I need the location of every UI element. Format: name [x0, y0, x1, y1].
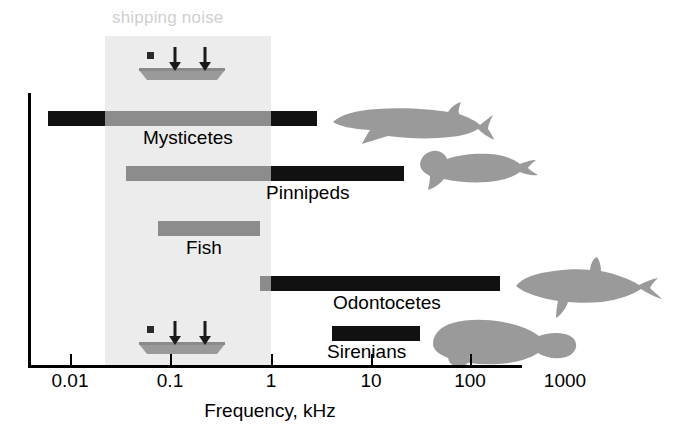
- bar-label-pinnipeds: Pinnipeds: [266, 182, 349, 204]
- ship-icon: [133, 44, 233, 86]
- bar-mysticetes-overlap: [105, 111, 271, 126]
- x-tick-label: 1: [266, 370, 277, 392]
- x-tick-label: 1000: [544, 370, 586, 392]
- bar-odontocetes: [260, 276, 500, 291]
- bar-sirenians: [332, 326, 420, 341]
- shipping-noise-label: shipping noise: [112, 8, 224, 28]
- x-tick-label: 100: [454, 370, 486, 392]
- x-axis-title: Frequency, kHz: [0, 400, 540, 422]
- x-tick: [470, 354, 472, 365]
- bar-label-fish: Fish: [186, 237, 222, 259]
- bar-label-sirenians: Sirenians: [327, 341, 406, 363]
- x-tick: [70, 354, 72, 365]
- y-axis: [28, 93, 31, 368]
- x-tick-label: 10: [360, 370, 381, 392]
- x-axis: [28, 365, 522, 368]
- bar-fish: [158, 221, 260, 236]
- manatee-silhouette: [425, 314, 580, 370]
- frequency-range-figure: shipping noise: [0, 0, 676, 443]
- x-tick: [271, 354, 273, 365]
- seal-silhouette: [412, 146, 542, 196]
- bar-label-odontocetes: Odontocetes: [333, 292, 441, 314]
- bar-label-mysticetes: Mysticetes: [143, 127, 233, 149]
- x-tick-label: 0.1: [157, 370, 183, 392]
- x-tick: [371, 354, 373, 365]
- x-tick-label: 0.01: [52, 370, 89, 392]
- orca-silhouette: [508, 256, 668, 320]
- x-tick: [170, 354, 172, 365]
- baleen-whale-silhouette: [330, 98, 495, 150]
- ship-icon: [133, 318, 233, 360]
- bar-pinnipeds-overlap: [126, 166, 271, 181]
- bar-odontocetes-overlap: [260, 276, 271, 291]
